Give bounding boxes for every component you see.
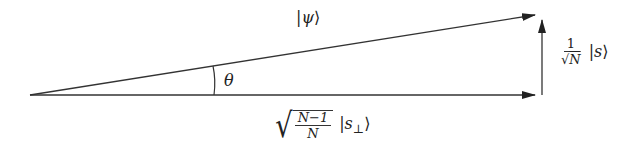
s-perp-coefficient: √ N−1 N <box>273 108 333 142</box>
s-perp-coefficient-denominator: N <box>307 126 318 140</box>
theta-angle-arc <box>213 66 215 95</box>
s-ket: |s⟩ <box>589 42 609 61</box>
s-coefficient-denominator: √N <box>561 52 581 66</box>
s-perp-ket: |s⊥⟩ <box>339 114 370 136</box>
sqrt-radical-symbol: √ <box>275 108 292 142</box>
s-coefficient-numerator: 1 <box>564 37 578 52</box>
s-coefficient-fraction: 1 √N <box>561 37 581 66</box>
theta-label: θ <box>224 71 234 90</box>
psi-ket-close: ⟩ <box>314 8 320 27</box>
s-component-label: 1 √N |s⟩ <box>561 37 609 66</box>
psi-label: |ψ⟩ <box>296 8 320 27</box>
psi-vector-arrow <box>30 15 535 95</box>
s-perp-component-label: √ N−1 N |s⊥⟩ <box>273 108 370 142</box>
s-perp-coefficient-numerator: N−1 <box>295 111 332 126</box>
s-perp-coefficient-fraction: N−1 N <box>295 111 332 140</box>
psi-symbol: ψ <box>301 8 314 27</box>
